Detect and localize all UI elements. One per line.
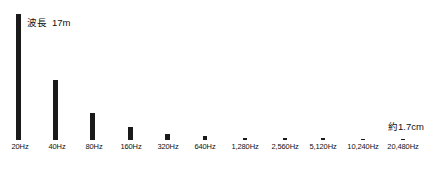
- annotation-wavelength-high-value: 約1.7cm: [388, 121, 424, 132]
- annotation-wavelength-low-value: 17m: [52, 17, 70, 28]
- x-tick-40hz: 40Hz: [48, 142, 65, 152]
- bar-20hz: [16, 14, 21, 140]
- bar-160hz: [128, 127, 133, 140]
- bar-40hz: [53, 80, 58, 140]
- frequency-wavelength-chart: 波長17m 約1.7cm 20Hz 40Hz 80Hz 160Hz 320Hz …: [0, 0, 435, 174]
- x-tick-320hz: 320Hz: [157, 142, 178, 152]
- bar-80hz: [90, 113, 95, 140]
- x-tick-640hz: 640Hz: [194, 142, 215, 152]
- annotation-wavelength-low: 波長17m: [27, 17, 70, 29]
- x-axis-tick-labels: 20Hz 40Hz 80Hz 160Hz 320Hz 640Hz 1,280Hz…: [0, 140, 435, 160]
- x-tick-10240hz: 10,240Hz: [347, 142, 378, 152]
- x-tick-1280hz: 1,280Hz: [231, 142, 258, 152]
- x-tick-80hz: 80Hz: [85, 142, 102, 152]
- x-tick-20hz: 20Hz: [11, 142, 28, 152]
- annotation-wavelength-low-label: 波長: [27, 17, 47, 28]
- x-tick-20480hz: 20,480Hz: [387, 142, 418, 152]
- x-tick-2560hz: 2,560Hz: [271, 142, 298, 152]
- x-tick-160hz: 160Hz: [120, 142, 141, 152]
- annotation-wavelength-high: 約1.7cm: [388, 121, 424, 133]
- x-tick-5120hz: 5,120Hz: [309, 142, 336, 152]
